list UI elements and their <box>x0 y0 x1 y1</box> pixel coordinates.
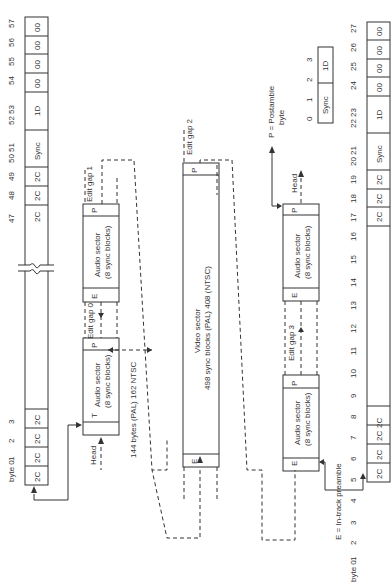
audio-sector-1-subtitle: (8 sync blocks) <box>103 355 112 408</box>
byte-value-3: 2C <box>33 415 42 425</box>
byte-value-49: 2C <box>33 172 42 182</box>
byte-index-2: 2 <box>349 541 358 545</box>
byte-label: byte 0 <box>7 460 16 482</box>
postamble-legend-line1: P = Postamble <box>267 86 276 138</box>
sector-start-E: E <box>290 461 299 466</box>
byte-value-57: 00 <box>33 23 42 32</box>
byte-value-54: 00 <box>33 79 42 88</box>
video-sector-start-E: E <box>190 459 199 464</box>
edit-gap-0-label: Edit gap 0 <box>86 303 95 339</box>
sync-legend-index-2: 2 <box>305 78 314 82</box>
byte-value-2: 2C <box>375 431 384 441</box>
preamble-legend: E = In-track preamble <box>334 463 343 540</box>
byte-index-6: 6 <box>349 457 358 461</box>
byte-index-20-21: 20 21 <box>349 146 358 166</box>
byte-index-11: 11 <box>349 347 358 355</box>
byte-index-50-51: 50 51 <box>7 143 16 163</box>
byte-value-3: 2C <box>375 418 384 428</box>
byte-index-47: 47 <box>7 214 16 223</box>
byte-index-7: 7 <box>349 436 358 440</box>
byte-value-1: 2C <box>375 450 384 460</box>
byte-value-25: 00 <box>375 64 384 73</box>
byte-index-26: 26 <box>349 43 358 52</box>
byte-index-9: 9 <box>349 394 358 398</box>
byte-value-27: 00 <box>375 27 384 36</box>
byte-index-10: 10 <box>349 369 358 378</box>
byte-index-12: 12 <box>349 324 358 333</box>
byte-index-8: 8 <box>349 415 358 419</box>
sector-end-P: P <box>290 381 299 386</box>
byte-value-2: 2C <box>33 434 42 444</box>
byte-index-5: 5 <box>349 478 358 482</box>
byte-index-3: 3 <box>349 521 358 525</box>
video-sector-end-P: P <box>190 168 199 173</box>
byte-index-25: 25 <box>349 62 358 71</box>
byte-index-54: 54 <box>7 76 16 85</box>
gap-size-label: 144 bytes (PAL) 162 NTSC <box>129 362 138 458</box>
sector-end-P: P <box>290 208 299 213</box>
sector-start-E: E <box>290 293 299 298</box>
byte-value-0: 2C <box>33 472 42 482</box>
byte-value-18: 2C <box>375 194 384 204</box>
byte-value-sync: Sync <box>33 142 42 160</box>
byte-index-57: 57 <box>7 19 16 28</box>
byte-value-24: 00 <box>375 83 384 92</box>
byte-index-18: 18 <box>349 194 358 203</box>
video-sector-subtitle: 498 sync blocks (PAL) 408 (NTSC) <box>203 266 212 390</box>
edit-gap-2-label: Edit gap 2 <box>185 119 194 155</box>
byte-value-26: 00 <box>375 46 384 55</box>
byte-index-15: 15 <box>349 255 358 264</box>
sync-legend-index-1: 1 <box>305 98 314 102</box>
byte-index-56: 56 <box>7 38 16 47</box>
byte-index-3: 3 <box>7 420 16 424</box>
video-sector-title: Video sector <box>193 309 202 353</box>
edit-gap-1-label: Edit gap 1 <box>85 166 94 202</box>
sync-legend-cell-1D: 1D <box>321 61 330 71</box>
byte-label: byte 0 <box>349 560 358 582</box>
sector-end-P: P <box>90 343 99 348</box>
byte-value-47: 2C <box>33 212 42 222</box>
byte-index-17: 17 <box>349 213 358 222</box>
byte-value-56: 00 <box>33 41 42 50</box>
byte-index-48: 48 <box>7 191 16 200</box>
byte-index-14: 14 <box>349 278 358 287</box>
sector-start-E: E <box>90 294 99 299</box>
byte-value-0: 2C <box>375 469 384 479</box>
sync-legend-cell-sync: Sync <box>321 96 330 114</box>
byte-index-16: 16 <box>349 232 358 241</box>
byte-index-24: 24 <box>349 81 358 90</box>
audio-sector-3-subtitle: (8 sync blocks) <box>303 393 312 446</box>
byte-value-1D: 1D <box>375 110 384 120</box>
head-label-2: Head <box>290 174 299 193</box>
audio-sector-3-title: Audio sector <box>293 401 302 445</box>
audio-sector-4-title: Audio sector <box>293 234 302 278</box>
byte-value-48: 2C <box>33 191 42 201</box>
byte-value-sync: Sync <box>375 145 384 163</box>
byte-value-1D: 1D <box>33 106 42 116</box>
byte-value-55: 00 <box>33 60 42 69</box>
byte-value-19: 2C <box>375 175 384 185</box>
byte-index-49: 49 <box>7 172 16 181</box>
sync-legend-index-0: 0 <box>305 117 314 121</box>
edit-gap-3-label: Edit gap 3 <box>287 325 296 361</box>
audio-sector-2-subtitle: (8 sync blocks) <box>103 226 112 279</box>
sector-start-T: T <box>90 413 99 418</box>
audio-sector-2-title: Audio sector <box>93 233 102 277</box>
byte-index-27: 27 <box>349 24 358 33</box>
byte-value-1: 2C <box>33 453 42 463</box>
byte-index-13: 13 <box>349 301 358 310</box>
audio-sector-4-subtitle: (8 sync blocks) <box>303 226 312 279</box>
byte-index-2: 2 <box>7 439 16 443</box>
sync-legend-index-3: 3 <box>305 58 314 62</box>
head-label-1: Head <box>89 446 98 465</box>
audio-sector-1-title: Audio sector <box>93 363 102 407</box>
byte-index-4: 4 <box>349 499 358 503</box>
byte-index-19: 19 <box>349 175 358 184</box>
byte-index-22-23: 22 23 <box>349 108 358 128</box>
byte-index-55: 55 <box>7 57 16 66</box>
byte-index-52-53: 52 53 <box>7 105 16 125</box>
byte-value-17: 2C <box>375 212 384 222</box>
sector-end-P: P <box>90 208 99 213</box>
postamble-legend-line2: byte <box>277 110 286 125</box>
